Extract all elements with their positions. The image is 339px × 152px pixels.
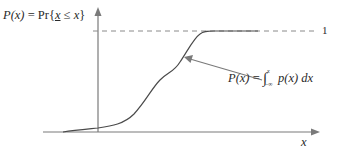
formula-lhs: P(x) xyxy=(228,71,250,85)
ylabel-lhs: P(x) xyxy=(3,8,25,22)
integral-formula: P(x) = ∫x−∞ p(x) dx xyxy=(228,70,313,85)
ylabel-pr: Pr xyxy=(38,8,49,22)
x-axis-label: x xyxy=(301,136,307,149)
annotation-arrowhead-icon xyxy=(184,55,193,63)
asymptote-label: 1 xyxy=(322,25,328,36)
cdf-diagram: P(x) = Pr{x ≤ x} P(x) = ∫x−∞ p(x) dx 1 x xyxy=(0,0,339,152)
formula-integrand: p(x) xyxy=(278,71,298,85)
ylabel-eq: = xyxy=(28,8,35,22)
ylabel-random-variable: x xyxy=(55,8,61,22)
formula-differential: dx xyxy=(301,71,313,85)
formula-eq: = xyxy=(253,71,260,85)
integral-upper-limit: x xyxy=(267,68,270,74)
ylabel-relation: ≤ xyxy=(64,8,71,22)
ylabel-close-brace: } xyxy=(79,8,85,22)
integral-limits: x−∞ xyxy=(267,70,275,84)
y-axis-label: P(x) = Pr{x ≤ x} xyxy=(3,9,85,22)
integral-lower-limit: −∞ xyxy=(265,81,273,87)
x-axis-arrowhead-icon xyxy=(311,129,320,136)
y-axis-arrowhead-icon xyxy=(95,7,102,16)
